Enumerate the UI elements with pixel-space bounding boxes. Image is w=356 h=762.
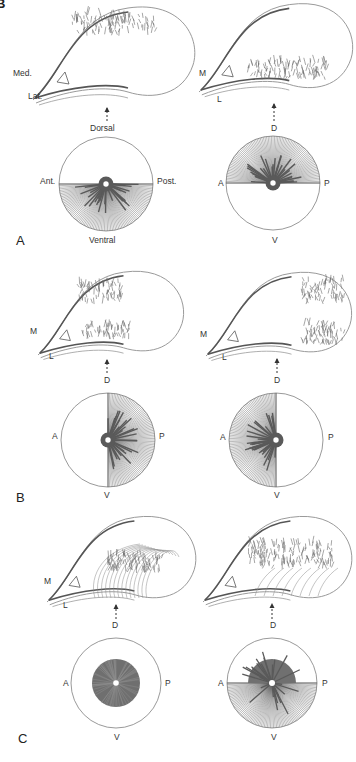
triangle-icon bbox=[222, 65, 233, 76]
fiber-tuft bbox=[287, 557, 288, 564]
fiber-tuft bbox=[151, 21, 152, 28]
fiber-arc bbox=[142, 550, 176, 598]
fiber-tuft bbox=[83, 330, 84, 333]
fiber-tuft bbox=[267, 560, 268, 565]
fiber-tuft bbox=[309, 72, 310, 76]
fiber-tuft bbox=[298, 538, 299, 544]
fiber-tuft bbox=[316, 326, 318, 332]
fiber-tuft bbox=[306, 63, 308, 70]
triangle-icon bbox=[225, 576, 236, 587]
fiber-tuft bbox=[322, 57, 323, 62]
fiber-tuft bbox=[316, 296, 318, 300]
fiber-tuft bbox=[86, 15, 88, 21]
fiber-tuft bbox=[341, 278, 342, 282]
label-medial: M bbox=[200, 330, 207, 339]
fiber-arc bbox=[291, 568, 311, 596]
fiber-tuft bbox=[321, 64, 323, 69]
fiber-tuft bbox=[325, 564, 327, 569]
fiber-tuft bbox=[251, 547, 252, 554]
label-medial: Med. bbox=[13, 69, 32, 78]
label-anterior: A bbox=[220, 433, 226, 442]
panel-letter-b: B bbox=[16, 491, 25, 504]
retina-b-right-outline bbox=[206, 272, 352, 358]
fiber-tuft bbox=[272, 539, 274, 547]
fiber-tuft bbox=[106, 296, 108, 301]
fiber-tuft bbox=[140, 550, 142, 558]
arrowhead-icon bbox=[275, 358, 280, 363]
disk-b-left-optic-hole bbox=[105, 437, 110, 442]
label-ventral: V bbox=[114, 733, 120, 742]
label-posterior: P bbox=[165, 679, 171, 688]
fiber-tuft bbox=[341, 292, 343, 297]
fiber-tuft bbox=[263, 64, 265, 69]
fiber-tuft bbox=[331, 329, 332, 334]
fiber-tuft bbox=[274, 55, 275, 62]
label-anterior: A bbox=[52, 432, 58, 441]
label-dorsal: D bbox=[274, 376, 280, 385]
fiber-tuft bbox=[129, 321, 131, 327]
fiber-tuft bbox=[94, 330, 95, 333]
fiber-tuft bbox=[332, 339, 334, 344]
fiber-tuft bbox=[298, 74, 299, 78]
fiber-tuft bbox=[311, 295, 313, 299]
fiber-tuft bbox=[112, 565, 113, 571]
fiber-tuft bbox=[276, 539, 277, 545]
fiber-tuft bbox=[252, 544, 253, 549]
arrowhead-icon bbox=[270, 603, 275, 608]
label-lateral: L bbox=[222, 353, 227, 362]
fiber-tuft bbox=[318, 59, 319, 63]
fiber-tuft bbox=[105, 27, 106, 35]
fiber-tuft bbox=[300, 72, 302, 79]
fiber-tuft bbox=[138, 14, 140, 17]
fiber-tuft bbox=[325, 325, 327, 330]
fiber-tuft bbox=[151, 27, 152, 33]
fiber-tuft bbox=[142, 13, 143, 18]
fiber-tuft bbox=[147, 17, 148, 21]
fiber-tuft bbox=[297, 60, 298, 66]
fiber-tuft bbox=[98, 8, 100, 15]
fiber-tuft bbox=[301, 337, 303, 341]
fiber-tuft bbox=[320, 341, 322, 344]
fiber-tuft bbox=[317, 67, 318, 70]
fiber-tuft bbox=[278, 554, 279, 559]
diagram-canvas bbox=[0, 0, 356, 762]
fiber-tuft bbox=[75, 11, 76, 17]
fiber-tuft bbox=[313, 63, 315, 67]
retina-c-right-lateral-outer bbox=[209, 597, 291, 606]
fiber-tuft bbox=[334, 337, 336, 345]
fiber-tuft bbox=[298, 546, 300, 553]
label-dorsal: D bbox=[271, 124, 277, 133]
fiber-tuft bbox=[318, 281, 320, 287]
fiber-tuft bbox=[115, 327, 116, 334]
label-dorsal: D bbox=[104, 376, 110, 385]
fiber-tuft bbox=[275, 63, 276, 67]
fiber-tuft bbox=[83, 20, 85, 24]
label-posterior: Post. bbox=[157, 177, 176, 186]
fiber-tuft bbox=[114, 282, 116, 286]
fiber-tuft bbox=[89, 324, 91, 329]
fiber-tuft bbox=[100, 23, 102, 28]
fiber-tuft bbox=[262, 541, 263, 544]
label-ventral: Ventral bbox=[89, 236, 115, 245]
fiber-tuft bbox=[91, 16, 92, 23]
label-anterior: A bbox=[63, 679, 69, 688]
fiber-tuft bbox=[302, 553, 303, 560]
label-anterior: A bbox=[218, 179, 224, 188]
fiber-tuft bbox=[139, 19, 141, 23]
fiber-tuft bbox=[265, 62, 266, 66]
fiber-tuft bbox=[328, 288, 329, 293]
fiber-tuft bbox=[306, 282, 307, 288]
fiber-tuft bbox=[331, 562, 333, 568]
fiber-tuft bbox=[326, 64, 328, 70]
fiber-tuft bbox=[154, 565, 155, 570]
fiber-tuft bbox=[123, 333, 124, 338]
label-posterior: P bbox=[159, 432, 165, 441]
label-anterior: A bbox=[218, 679, 224, 688]
fiber-tuft bbox=[317, 338, 319, 343]
fiber-tuft bbox=[111, 558, 112, 565]
fiber-tuft bbox=[271, 65, 273, 71]
fiber-tuft bbox=[316, 334, 318, 340]
fiber-tuft bbox=[147, 27, 148, 35]
fiber-tuft bbox=[275, 74, 276, 78]
fiber-tuft bbox=[285, 76, 287, 80]
